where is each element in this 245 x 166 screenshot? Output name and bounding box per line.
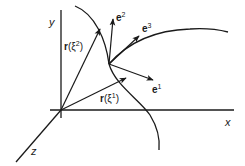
e-superscript: 3 — [148, 22, 152, 29]
position-vector-r-xi1-label: r(ξ1) — [100, 92, 119, 105]
y-axis-label: y — [48, 16, 56, 28]
xi-close: ) — [80, 41, 83, 52]
basis-vector-e2 — [109, 19, 113, 64]
axes — [16, 10, 234, 162]
e-superscript: 2 — [122, 11, 126, 18]
z-axis-label: z — [30, 145, 37, 157]
coordinate-curve-2 — [109, 29, 228, 64]
basis-vector-e2-label: e2 — [116, 11, 126, 23]
xi-close: ) — [116, 93, 119, 104]
position-vector-r-xi2-label: r(ξ2) — [64, 40, 83, 53]
x-axis-label: x — [224, 116, 231, 128]
coordinate-curves — [75, 6, 228, 150]
basis-vector-e1-label: e1 — [152, 83, 162, 95]
e-superscript: 1 — [158, 83, 162, 90]
basis-vector-e3-label: e3 — [142, 22, 152, 34]
curvilinear-coordinates-diagram: y x z r(ξ2) r(ξ1) e1 e2 e3 — [0, 0, 245, 166]
z-axis — [16, 110, 61, 162]
basis-vector-e3 — [109, 36, 139, 64]
